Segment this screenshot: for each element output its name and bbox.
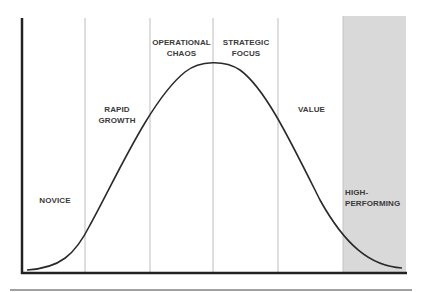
label-line: NOVICE xyxy=(30,195,80,206)
label-line: HIGH- xyxy=(345,187,407,198)
label-line: OPERATIONAL xyxy=(150,37,213,48)
stage-label-high-performing: HIGH- PERFORMING xyxy=(345,187,407,209)
label-line: PERFORMING xyxy=(345,198,407,209)
stage-label-operational-chaos: OPERATIONAL CHAOS xyxy=(150,37,213,59)
label-line: STRATEGIC xyxy=(214,37,278,48)
label-line: RAPID xyxy=(92,104,142,115)
label-line: FOCUS xyxy=(214,48,278,59)
label-line: CHAOS xyxy=(150,48,213,59)
label-line: VALUE xyxy=(280,104,343,115)
stage-label-rapid-growth: RAPID GROWTH xyxy=(92,104,142,126)
high-performing-highlight xyxy=(343,16,406,273)
stage-label-novice: NOVICE xyxy=(30,195,80,206)
label-line: GROWTH xyxy=(92,115,142,126)
stage-label-value: VALUE xyxy=(280,104,343,115)
stage-label-strategic-focus: STRATEGIC FOCUS xyxy=(214,37,278,59)
